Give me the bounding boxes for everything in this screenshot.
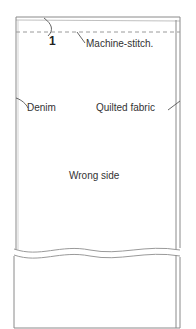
quilted-leader-line — [168, 101, 180, 110]
quilted-fabric-label: Quilted fabric — [96, 102, 155, 114]
break-lines — [14, 248, 180, 258]
upper-panel — [16, 17, 180, 250]
machine-stitch-label: Machine-stitch. — [86, 38, 153, 50]
denim-label: Denim — [27, 102, 56, 114]
step-number: 1 — [49, 34, 56, 48]
top-edge — [16, 17, 180, 21]
lower-panel — [14, 255, 180, 328]
wrong-side-label: Wrong side — [69, 170, 119, 182]
stitch-leader-line — [77, 32, 85, 43]
